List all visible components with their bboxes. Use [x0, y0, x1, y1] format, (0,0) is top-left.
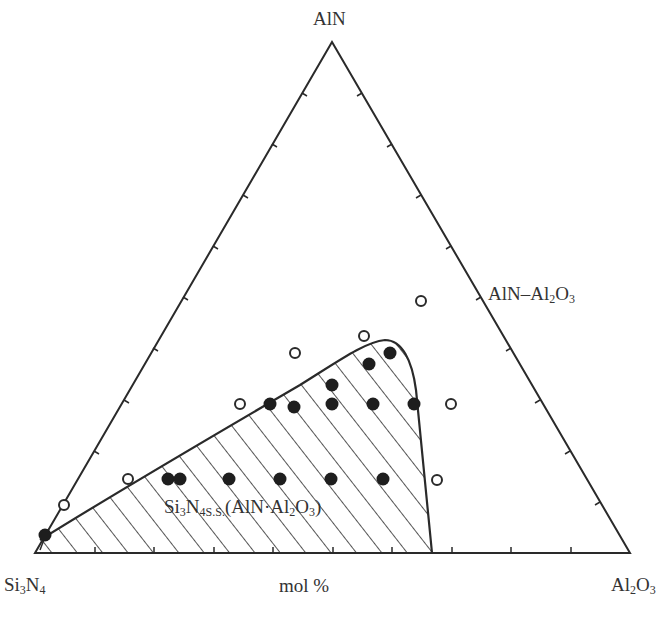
open-data-point [432, 475, 442, 485]
filled-data-point [162, 473, 175, 486]
label-part: Si [4, 574, 20, 595]
vertex-label-aln: AlN [313, 8, 346, 30]
filled-data-point [288, 401, 301, 414]
filled-data-point [223, 473, 236, 486]
label-part: O [555, 283, 569, 304]
filled-data-point [174, 473, 187, 486]
filled-data-point [274, 473, 287, 486]
open-data-point [359, 331, 369, 341]
label-part: AlN–Al [488, 283, 549, 304]
filled-data-point [264, 398, 277, 411]
filled-data-point [326, 398, 339, 411]
label-subscript: 3 [650, 583, 656, 597]
filled-data-point [39, 529, 52, 542]
filled-data-point [326, 379, 339, 392]
label-part: O [636, 574, 650, 595]
axis-unit-label: mol % [279, 575, 329, 597]
label-part: Al [611, 574, 630, 595]
axis-unit-text: mol % [279, 575, 329, 596]
label-part: Si [164, 496, 180, 517]
filled-data-point [384, 347, 397, 360]
vertex-label-al2o3: Al2O3 [611, 574, 656, 598]
label-subscript-ss: S.S. [206, 505, 225, 519]
open-data-point [446, 399, 456, 409]
label-subscript: 3 [569, 292, 575, 306]
filled-data-point [408, 398, 421, 411]
vertex-label-si3n4: Si3N4 [4, 574, 46, 598]
filled-data-point [363, 358, 376, 371]
join-label-aln-al2o3: AlN–Al2O3 [488, 283, 575, 307]
open-data-point [123, 474, 133, 484]
label-part: (AlN·Al [225, 496, 289, 517]
label-part: ) [315, 496, 321, 517]
label-subscript: 4 [40, 583, 46, 597]
region-label-solid-solution: Si3N4S.S.(AlN·Al2O3) [164, 496, 321, 520]
label-part: O [295, 496, 309, 517]
open-data-point [416, 296, 426, 306]
label-part: N [186, 496, 200, 517]
label-part: N [26, 574, 40, 595]
solid-solution-region [35, 340, 432, 553]
filled-data-point [325, 473, 338, 486]
vertex-label-text: AlN [313, 8, 346, 29]
open-data-point [59, 500, 69, 510]
filled-data-point [377, 473, 390, 486]
filled-data-point [367, 398, 380, 411]
open-data-point [235, 399, 245, 409]
ternary-diagram [0, 0, 666, 622]
open-data-point [290, 348, 300, 358]
